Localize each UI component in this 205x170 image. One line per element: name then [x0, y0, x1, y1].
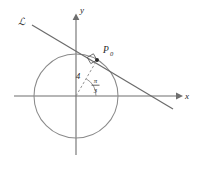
- y-axis-arrowhead: [73, 14, 80, 21]
- x-axis-arrowhead: [176, 93, 183, 100]
- line-l-label: ℒ: [18, 16, 26, 27]
- y-axis-label: y: [79, 5, 84, 15]
- point-p0-label: P: [102, 45, 109, 55]
- angle-denominator-label: 3: [93, 87, 98, 94]
- point-p0-dot: [95, 58, 99, 62]
- point-p0-subscript: 0: [110, 50, 114, 57]
- tangent-circle-diagram: x y ℒ P 0 4 π 3: [0, 0, 205, 170]
- angle-numerator-label: π: [94, 77, 98, 84]
- radius-length-label: 4: [76, 71, 81, 81]
- x-axis-label: x: [184, 91, 189, 101]
- geometry-figure: x y ℒ P 0 4 π 3: [0, 0, 205, 170]
